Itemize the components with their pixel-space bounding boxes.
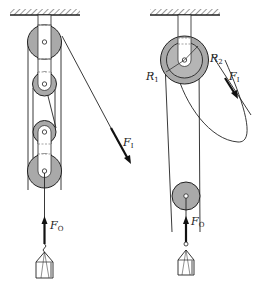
right-pulley-system: R1 R2 FI FO [145, 9, 251, 275]
right-radius2-label: R2 [209, 52, 223, 66]
left-effort-arrowhead [124, 155, 131, 164]
left-hook [43, 244, 46, 252]
left-load-arrowhead [42, 216, 48, 224]
right-rope-left [165, 63, 172, 232]
left-weight [36, 252, 53, 278]
right-axle-lower [184, 194, 188, 198]
right-weight [178, 250, 194, 275]
right-hook [184, 242, 188, 246]
left-axle-third [42, 130, 46, 134]
right-radius1-label: R1 [145, 70, 159, 84]
left-axle-top [42, 40, 46, 44]
left-pulley-system: FI FO [10, 9, 134, 278]
right-ceiling-hatch [150, 9, 220, 15]
left-ceiling-hatch [10, 9, 80, 15]
left-axle-second [42, 82, 46, 86]
right-load-arrowhead [183, 216, 189, 224]
pulley-diagram: FI FO [0, 0, 255, 287]
right-load-label: FO [190, 215, 205, 229]
left-axle-bottom [42, 169, 46, 173]
right-effort-label: FI [228, 70, 240, 84]
left-load-label: FO [49, 219, 64, 233]
left-effort-label: FI [122, 136, 134, 150]
right-rope-right [199, 63, 200, 232]
